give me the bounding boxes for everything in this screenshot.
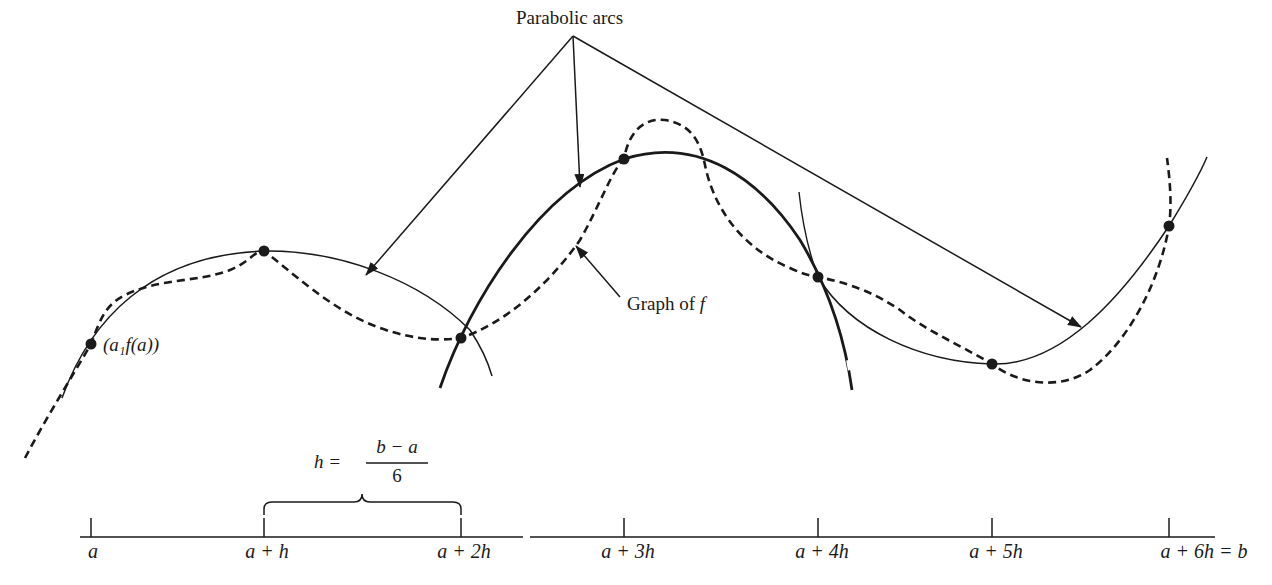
- start-point-label: (a₁f(a)): [103, 334, 159, 356]
- tick-label-a-plus-6h-equals-b: a + 6h = b: [1161, 540, 1248, 563]
- arrow-to-graph-of-f: [576, 246, 620, 297]
- arrow-to-arc-1: [366, 36, 573, 275]
- tick-label-a: a: [88, 540, 98, 563]
- tick-label-a-plus-5h: a + 5h: [969, 540, 1023, 563]
- point-a-plus-3h: [619, 154, 630, 165]
- point-a-plus-6h: [1164, 221, 1175, 232]
- h-interval-brace: [264, 494, 461, 515]
- graph-of-f-prefix: Graph of: [627, 293, 700, 314]
- parabolic-arc-3: [818, 157, 1207, 364]
- arrow-to-arc-3: [573, 36, 1081, 327]
- parabolic-arcs-label: Parabolic arcs: [516, 7, 623, 29]
- h-definition-numerator: b − a: [366, 436, 428, 458]
- point-a: [86, 339, 97, 350]
- parabolic-arc-1: [62, 251, 492, 398]
- arrow-to-arc-2: [573, 36, 580, 187]
- tick-label-a-plus-2h: a + 2h: [437, 540, 491, 563]
- parabolic-arc-3-start: [799, 192, 818, 277]
- graph-of-f-label: Graph of f: [627, 293, 705, 315]
- h-definition-lhs: h =: [314, 451, 341, 473]
- tick-label-a-plus-h: a + h: [245, 540, 289, 563]
- parabolic-arc-2: [440, 152, 852, 390]
- graph-of-f-var: f: [700, 293, 705, 314]
- point-a-plus-4h: [813, 272, 824, 283]
- tick-label-a-plus-4h: a + 4h: [795, 540, 849, 563]
- point-a-plus-h: [259, 246, 270, 257]
- point-a-plus-2h: [456, 333, 467, 344]
- tick-label-a-plus-3h: a + 3h: [601, 540, 655, 563]
- h-definition-denominator: 6: [366, 465, 428, 487]
- point-a-plus-5h: [987, 359, 998, 370]
